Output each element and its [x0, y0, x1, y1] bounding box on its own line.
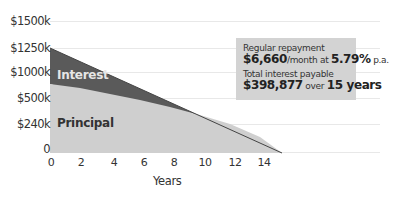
total-interest-line: $398,877 over 15 years: [243, 80, 356, 92]
total-interest-amount: $398,877: [243, 78, 303, 92]
y-tick-500k: $500k: [17, 91, 50, 105]
x-tick-4: 4: [104, 156, 124, 169]
x-tick-10: 10: [195, 156, 215, 169]
x-axis-title: Years: [153, 174, 181, 188]
principal-label: Principal: [57, 116, 114, 130]
loan-term: 15 years: [327, 78, 382, 92]
y-tick-1500k: $1500k: [10, 14, 50, 28]
loan-repayment-chart: $1500k $1250k $1000k $500k $240k 0 0 2 4…: [0, 0, 394, 199]
interest-rate: 5.79%: [331, 52, 371, 66]
x-tick-0: 0: [41, 156, 61, 169]
y-tick-0: 0: [43, 142, 50, 156]
x-tick-2: 2: [71, 156, 91, 169]
x-tick-12: 12: [225, 156, 245, 169]
y-tick-1250k: $1250k: [10, 41, 50, 55]
y-tick-1000k: $1000k: [10, 65, 50, 79]
x-tick-8: 8: [164, 156, 184, 169]
repayment-line: $6,660/month at 5.79% p.a.: [243, 54, 356, 66]
repayment-summary-box: Regular repayment $6,660/month at 5.79% …: [236, 38, 356, 100]
x-tick-14: 14: [254, 156, 274, 169]
over-text: over: [303, 81, 327, 91]
x-tick-6: 6: [134, 156, 154, 169]
interest-label: Interest: [57, 68, 108, 82]
y-tick-240k: $240k: [17, 117, 50, 131]
repayment-amount: $6,660: [243, 52, 287, 66]
pa-text: p.a.: [371, 55, 389, 65]
per-month-text: /month at: [287, 55, 331, 65]
